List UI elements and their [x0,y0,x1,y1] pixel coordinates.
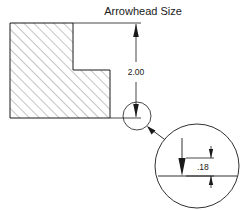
arrowhead-down-icon [133,104,139,117]
leader-arrowhead-icon [147,126,156,135]
hatched-part [10,23,110,118]
technical-drawing: Arrowhead Size 2.00 .18 [0,0,246,210]
arrowhead-up-icon [133,24,139,37]
drawing-title: Arrowhead Size [104,5,182,17]
vertical-dimension-label: 2.00 [128,67,145,77]
arrowhead-size-label: .18 [197,162,209,172]
drawing-canvas: Arrowhead Size 2.00 .18 [0,0,246,210]
